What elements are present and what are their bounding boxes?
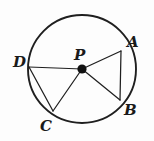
center-point-dot	[77, 64, 86, 73]
circle-diagram-svg: P A B C D	[0, 0, 154, 141]
geometry-figure: P A B C D	[0, 0, 154, 141]
radius-pa	[82, 51, 121, 69]
radius-pb	[82, 69, 120, 100]
chord-ab	[120, 51, 121, 100]
point-label-a: A	[125, 33, 139, 51]
radius-pc	[53, 69, 82, 111]
point-label-c: C	[40, 117, 52, 135]
point-label-p: P	[73, 46, 86, 64]
point-label-b: B	[123, 101, 137, 119]
point-label-d: D	[12, 53, 26, 71]
radius-pd	[29, 67, 82, 69]
